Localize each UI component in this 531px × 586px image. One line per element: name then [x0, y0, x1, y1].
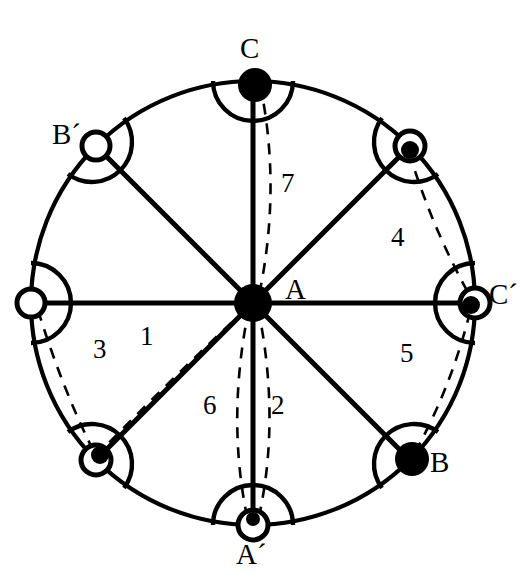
dashed-chord-1	[99, 309, 246, 453]
center-point-a	[234, 284, 272, 322]
vertex-label-b: B	[430, 448, 449, 477]
number-label-4: 4	[391, 224, 405, 251]
figure-canvas	[0, 0, 531, 586]
vertex-marker-bprime	[82, 132, 110, 160]
vertex-marker-cprime-core	[462, 296, 480, 314]
vertex-marker-lowerleft-core	[91, 446, 109, 464]
number-label-6: 6	[203, 392, 217, 419]
number-label-2: 2	[271, 392, 285, 419]
vertex-marker-left	[17, 289, 45, 317]
vertex-marker-upperright-core	[401, 141, 419, 159]
vertex-label-b-prime: B´	[52, 120, 81, 149]
number-label-1: 1	[140, 323, 154, 350]
geometric-figure: C B´ C´ B A´ A 1 2 3 4 5 6 7	[0, 0, 531, 586]
vertex-marker-aprime-core	[246, 512, 260, 526]
vertex-label-c: C	[240, 34, 259, 63]
center-label-a: A	[285, 275, 306, 304]
vertex-marker-b	[395, 442, 429, 476]
vertex-label-c-prime: C´	[489, 280, 518, 309]
number-label-7: 7	[281, 170, 295, 197]
number-label-5: 5	[400, 340, 414, 367]
vertex-marker-c	[238, 68, 272, 102]
vertex-label-a-prime: A´	[236, 540, 267, 569]
number-label-3: 3	[93, 336, 107, 363]
